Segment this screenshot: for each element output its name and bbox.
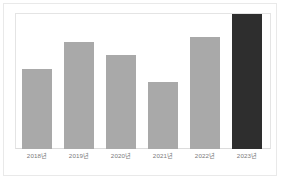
bar-2020[interactable] <box>106 55 136 150</box>
bar-series <box>16 14 270 149</box>
bar-2018[interactable] <box>22 69 52 149</box>
x-tick-label-2021: 2021년 <box>142 151 184 161</box>
x-tick-label-2023: 2023년 <box>226 151 268 161</box>
x-axis: 2018년 2019년 2020년 2021년 2022년 2023년 <box>16 151 270 165</box>
x-tick-label-2018: 2018년 <box>16 151 58 161</box>
bar-slot-2019 <box>64 14 94 149</box>
bar-slot-2018 <box>22 14 52 149</box>
x-tick-label-2022: 2022년 <box>184 151 226 161</box>
bar-slot-2022 <box>190 14 220 149</box>
bar-slot-2023 <box>232 14 262 149</box>
x-tick-label-2020: 2020년 <box>100 151 142 161</box>
bar-slot-2021 <box>148 14 178 149</box>
bar-slot-2020 <box>106 14 136 149</box>
bar-2021[interactable] <box>148 82 178 150</box>
chart-card: 2018년 2019년 2020년 2021년 2022년 2023년 <box>3 3 277 176</box>
bar-2019[interactable] <box>64 42 94 149</box>
x-tick-label-2019: 2019년 <box>58 151 100 161</box>
bar-2023[interactable] <box>232 14 262 149</box>
bar-2022[interactable] <box>190 37 220 149</box>
